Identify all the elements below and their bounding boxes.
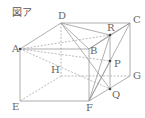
vertex-label-d: D — [58, 11, 66, 21]
hidden-edge-HE — [20, 76, 61, 101]
vertex-label-b: B — [90, 46, 97, 56]
vertex-label-p: P — [114, 59, 121, 69]
edge-DA — [20, 23, 61, 49]
vertex-label-r: R — [107, 23, 115, 33]
vertex-label-a: A — [12, 44, 19, 54]
vertex-label-g: G — [133, 71, 141, 81]
cube-diagram — [0, 0, 145, 118]
vertex-label-e: E — [12, 102, 19, 112]
point-r — [109, 34, 112, 37]
vertex-label-c: C — [133, 15, 141, 25]
vertex-label-q: Q — [112, 90, 120, 100]
point-q — [109, 88, 112, 91]
edge-DB — [61, 23, 89, 49]
vertex-label-f: F — [86, 103, 93, 113]
point-p — [109, 60, 112, 63]
vertex-label-h: H — [51, 65, 60, 75]
